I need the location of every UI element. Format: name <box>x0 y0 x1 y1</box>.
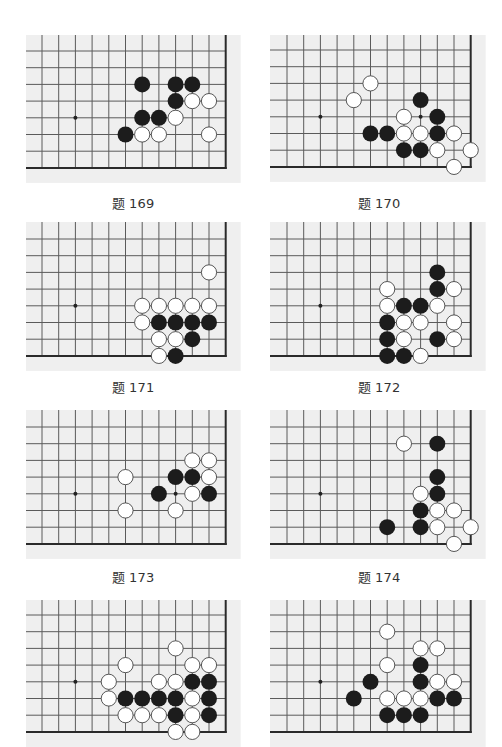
white-stone <box>185 658 200 673</box>
black-stone <box>429 126 445 142</box>
white-stone <box>430 674 445 689</box>
white-stone <box>446 674 461 689</box>
white-stone <box>396 315 411 330</box>
white-stone <box>185 691 200 706</box>
black-stone <box>168 315 184 331</box>
black-stone <box>413 657 429 673</box>
white-stone <box>446 332 461 347</box>
black-stone <box>184 315 200 331</box>
go-board-174 <box>270 410 486 559</box>
black-stone <box>184 469 200 485</box>
white-stone <box>430 503 445 518</box>
black-stone <box>363 126 379 142</box>
problem-label-169: 题 169 <box>73 193 193 212</box>
white-stone <box>430 520 445 535</box>
white-stone <box>168 674 183 689</box>
white-stone <box>446 315 461 330</box>
white-stone <box>168 503 183 518</box>
black-stone <box>429 436 445 452</box>
black-stone <box>134 110 150 126</box>
white-stone <box>413 348 428 363</box>
black-stone <box>184 674 200 690</box>
star-point <box>73 304 77 308</box>
black-stone <box>446 691 462 707</box>
black-stone <box>134 691 150 707</box>
black-stone <box>201 707 217 723</box>
white-stone <box>463 143 478 158</box>
black-stone <box>379 519 395 535</box>
white-stone <box>413 126 428 141</box>
black-stone <box>396 348 412 364</box>
white-stone <box>446 126 461 141</box>
black-stone <box>379 331 395 347</box>
white-stone <box>413 641 428 656</box>
black-stone <box>184 331 200 347</box>
black-stone <box>118 691 134 707</box>
black-stone <box>184 76 200 92</box>
black-stone <box>379 707 395 723</box>
white-stone <box>151 298 166 313</box>
white-stone <box>380 282 395 297</box>
white-stone <box>151 674 166 689</box>
board-background <box>270 600 486 747</box>
white-stone <box>185 708 200 723</box>
problem-label-172: 题 172 <box>319 377 439 396</box>
black-stone <box>413 298 429 314</box>
black-stone <box>429 469 445 485</box>
white-stone <box>151 127 166 142</box>
go-board-175 <box>26 600 241 747</box>
white-stone <box>185 298 200 313</box>
go-board-170 <box>270 35 486 182</box>
go-board-169 <box>26 35 241 183</box>
black-stone <box>363 674 379 690</box>
star-point <box>318 680 322 684</box>
white-stone <box>185 453 200 468</box>
white-stone <box>151 348 166 363</box>
black-stone <box>168 348 184 364</box>
black-stone <box>201 315 217 331</box>
white-stone <box>168 332 183 347</box>
white-stone <box>463 520 478 535</box>
white-stone <box>201 265 216 280</box>
black-stone <box>429 691 445 707</box>
star-point <box>318 304 322 308</box>
white-stone <box>118 503 133 518</box>
black-stone <box>151 315 167 331</box>
star-point <box>318 115 322 119</box>
white-stone <box>118 708 133 723</box>
white-stone <box>135 298 150 313</box>
white-stone <box>101 691 116 706</box>
white-stone <box>446 282 461 297</box>
white-stone <box>380 691 395 706</box>
black-stone <box>151 486 167 502</box>
problem-label-171: 题 171 <box>73 377 193 396</box>
white-stone <box>380 298 395 313</box>
black-stone <box>118 127 134 143</box>
black-stone <box>379 348 395 364</box>
white-stone <box>413 691 428 706</box>
white-stone <box>430 641 445 656</box>
white-stone <box>185 486 200 501</box>
white-stone <box>446 159 461 174</box>
white-stone <box>151 708 166 723</box>
white-stone <box>430 298 445 313</box>
white-stone <box>430 143 445 158</box>
black-stone <box>413 519 429 535</box>
white-stone <box>396 109 411 124</box>
black-stone <box>201 691 217 707</box>
black-stone <box>134 76 150 92</box>
problem-label-173: 题 173 <box>73 567 193 586</box>
white-stone <box>380 658 395 673</box>
white-stone <box>201 658 216 673</box>
black-stone <box>168 691 184 707</box>
star-point <box>73 116 77 120</box>
white-stone <box>446 503 461 518</box>
white-stone <box>135 315 150 330</box>
white-stone <box>413 315 428 330</box>
white-stone <box>101 674 116 689</box>
star-point <box>73 680 77 684</box>
black-stone <box>396 142 412 158</box>
white-stone <box>201 470 216 485</box>
black-stone <box>429 264 445 280</box>
white-stone <box>168 110 183 125</box>
